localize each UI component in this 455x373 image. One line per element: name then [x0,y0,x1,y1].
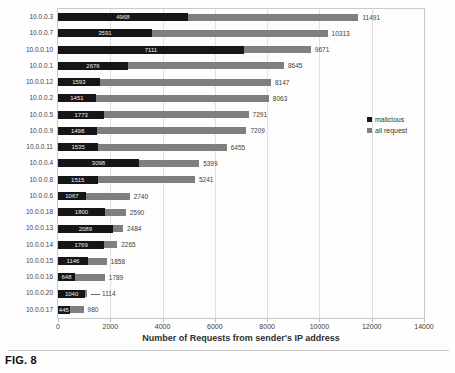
category-label: 10.0.0.8 [0,172,53,188]
all-request-value-label: 7209 [250,127,264,134]
all-request-value-label: 2265 [121,241,135,248]
malicious-value-label: 3591 [98,30,111,36]
x-tick-mark [424,319,425,322]
category-label: 10.0.0.2 [0,90,53,106]
patent-figure-page: 4968114913591103137111967126768645159381… [0,0,455,373]
malicious-value-label: 648 [61,274,71,280]
malicious-value-label: 7111 [145,47,157,53]
chart-row: 359110313 [58,25,424,41]
y-axis-labels: 10.0.0.310.0.0.710.0.0.1010.0.0.110.0.0.… [0,9,53,318]
legend-label-all-request: all request [375,127,407,134]
category-label: 10.0.0.1 [0,58,53,74]
malicious-value-label: 445 [59,307,69,313]
x-tick-label: 14000 [414,323,433,330]
chart-row: 20892484 [58,220,424,236]
malicious-bar: 1800 [58,208,105,216]
legend: malicious all request [367,116,407,138]
category-label: 10.0.0.14 [0,237,53,253]
x-tick-label: 0 [56,323,60,330]
all-request-value-label: 2740 [134,193,148,200]
malicious-bar: 1146 [58,257,88,265]
figure-bottom-rule [8,350,449,351]
label-leader-line [91,294,100,295]
x-tick-label: 2000 [102,323,118,330]
category-label: 10.0.0.15 [0,253,53,269]
category-label: 10.0.0.7 [0,25,53,41]
legend-item-malicious: malicious [367,116,407,123]
malicious-value-label: 1451 [70,95,83,101]
malicious-bar: 1498 [58,127,97,135]
all-request-value-label: 10313 [332,30,350,37]
category-label: 10.0.0.11 [0,139,53,155]
malicious-bar: 2089 [58,225,113,233]
all-request-value-label: 1789 [109,274,123,281]
malicious-value-label: 1498 [71,128,84,134]
malicious-bar: 4968 [58,13,188,21]
all-request-value-label: 1114 [91,290,116,297]
category-label: 10.0.0.20 [0,285,53,301]
figure-label: FIG. 8 [5,354,37,366]
x-tick-mark [372,319,373,322]
all-request-value-label: 8147 [275,79,289,86]
chart-row: 30985399 [58,155,424,171]
x-tick-mark [163,319,164,322]
malicious-value-label: 1800 [75,209,88,215]
malicious-value-label: 1535 [71,144,84,150]
all-request-value-label: 980 [88,306,99,313]
malicious-bar: 1535 [58,143,98,151]
chart-row: 10672740 [58,188,424,204]
malicious-bar: 1769 [58,241,104,249]
malicious-swatch-icon [367,117,372,122]
chart-row: 496811491 [58,9,424,25]
category-label: 10.0.0.16 [0,269,53,285]
malicious-bar: 1040 [58,290,85,298]
x-tick-mark [319,319,320,322]
malicious-bar: 7111 [58,46,244,54]
malicious-bar: 1451 [58,94,96,102]
category-label: 10.0.0.5 [0,107,53,123]
chart-row: 15938147 [58,74,424,90]
malicious-bar: 3591 [58,29,152,37]
all-request-value-label: 9671 [315,46,329,53]
all-request-value-label: 1858 [111,258,125,265]
chart-row: 14518063 [58,90,424,106]
x-tick-mark [215,319,216,322]
x-tick-mark [58,319,59,322]
x-tick-label: 12000 [362,323,381,330]
all-request-value-label: 8063 [273,95,287,102]
legend-item-all-request: all request [367,127,407,134]
category-label: 10.0.0.3 [0,9,53,25]
malicious-value-label: 1769 [74,242,87,248]
malicious-bar: 1593 [58,78,100,86]
malicious-value-label: 2676 [86,63,99,69]
category-label: 10.0.0.4 [0,155,53,171]
all-request-value-label: 6455 [231,144,245,151]
x-tick-mark [110,319,111,322]
chart-row: 6481789 [58,269,424,285]
all-request-value-label: 11491 [362,14,380,21]
x-tick-mark [267,319,268,322]
x-tick-label: 10000 [310,323,329,330]
malicious-bar: 445 [58,306,70,314]
malicious-bar: 1515 [58,176,98,184]
x-axis-title: Number of Requests from sender's IP addr… [57,333,425,343]
malicious-bar: 2676 [58,62,128,70]
malicious-bar: 3098 [58,159,139,167]
malicious-value-label: 1040 [65,291,78,297]
category-label: 10.0.0.18 [0,204,53,220]
chart-row: 11461858 [58,253,424,269]
malicious-value-label: 4968 [116,14,129,20]
malicious-bar: 1067 [58,192,86,200]
malicious-value-label: 3098 [92,160,105,166]
malicious-value-label: 2089 [79,226,92,232]
malicious-value-label: 1146 [67,258,80,264]
category-label: 10.0.0.13 [0,220,53,236]
all-request-swatch-icon [367,128,372,133]
legend-label-malicious: malicious [375,116,404,123]
category-label: 10.0.0.6 [0,188,53,204]
chart-row: 18002590 [58,204,424,220]
chart-row: 10401114 [58,285,424,301]
all-request-value-label: 5399 [203,160,217,167]
malicious-value-label: 1515 [71,177,84,183]
all-request-value-label: 2484 [127,225,141,232]
